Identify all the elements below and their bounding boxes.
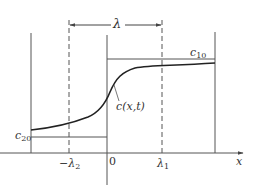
x-axis-label: x <box>236 155 243 168</box>
c10-label: c10 <box>190 46 206 60</box>
lambda1-tick-label: λ1 <box>156 157 169 171</box>
concentration-profile-diagram: λ c10 c20 c(x,t) −λ2 0 λ1 x <box>0 0 255 194</box>
curve-leader-line <box>114 85 119 101</box>
origin-tick-label: 0 <box>109 155 116 168</box>
concentration-curve <box>31 63 215 130</box>
c20-label: c20 <box>15 129 31 143</box>
lambda-label: λ <box>112 16 121 31</box>
neg-lambda2-tick-label: −λ2 <box>59 157 80 171</box>
curve-label: c(x,t) <box>116 100 145 113</box>
